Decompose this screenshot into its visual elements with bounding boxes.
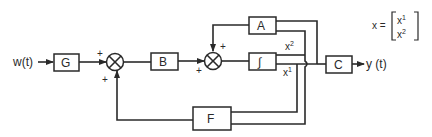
summing-junction-2 bbox=[205, 53, 222, 70]
output-label: y (t) bbox=[366, 57, 387, 71]
x2-label: x2 bbox=[285, 40, 294, 52]
sum2-sign-left: + bbox=[196, 65, 202, 76]
state-vector-row1: x1 bbox=[397, 14, 406, 26]
state-vector-lhs: x = bbox=[372, 20, 386, 31]
block-c[interactable]: C bbox=[326, 56, 352, 73]
block-g-label: G bbox=[61, 56, 70, 70]
state-vector-row2: x2 bbox=[397, 28, 406, 40]
block-g[interactable]: G bbox=[54, 54, 79, 71]
sum1-sign-bottom: + bbox=[102, 74, 108, 85]
block-f-label: F bbox=[207, 112, 214, 126]
sum1-sign-left: + bbox=[97, 48, 103, 59]
block-c-label: C bbox=[334, 58, 343, 72]
summing-junction-1 bbox=[107, 54, 124, 71]
block-f[interactable]: F bbox=[193, 107, 231, 130]
left-bracket bbox=[392, 12, 396, 40]
a-to-sum2 bbox=[213, 25, 249, 51]
state-vector-definition: x = x1 x2 bbox=[372, 12, 418, 40]
block-b-label: B bbox=[159, 55, 167, 69]
block-integrator-label: ∫ bbox=[257, 55, 262, 69]
f-to-sum1 bbox=[117, 71, 193, 120]
x1-to-a bbox=[276, 21, 317, 64]
input-label: w(t) bbox=[12, 55, 33, 69]
right-bracket bbox=[414, 12, 418, 40]
block-b[interactable]: B bbox=[151, 53, 178, 70]
block-integrator[interactable]: ∫ bbox=[249, 53, 276, 70]
block-a[interactable]: A bbox=[249, 17, 276, 34]
block-a-label: A bbox=[257, 19, 265, 33]
x1-label: x1 bbox=[283, 66, 292, 78]
sum2-sign-top: + bbox=[220, 41, 226, 52]
block-diagram: w(t) G + + B + + A ∫ x2 x1 bbox=[0, 0, 432, 137]
